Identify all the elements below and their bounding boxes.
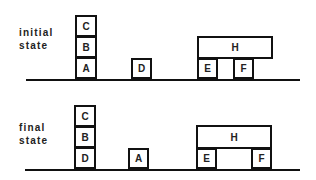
block-d: D: [74, 147, 96, 169]
ground-line: [25, 169, 300, 171]
block-f: F: [233, 58, 254, 79]
block-e: E: [197, 58, 218, 79]
block-b: B: [74, 126, 96, 148]
block-c: C: [74, 105, 96, 127]
initial-state-label: initial state: [19, 26, 54, 52]
block-h: H: [197, 36, 273, 59]
block-b: B: [75, 36, 97, 58]
label-line-1: final: [19, 121, 48, 134]
final-state-label: final state: [19, 121, 48, 147]
label-line-2: state: [19, 134, 48, 147]
label-line-1: initial: [19, 26, 54, 39]
block-c: C: [75, 15, 97, 37]
block-h: H: [196, 125, 272, 149]
block-e: E: [196, 148, 217, 169]
block-a: A: [75, 57, 97, 79]
block-f: F: [251, 148, 272, 169]
ground-line: [26, 79, 300, 81]
block-a: A: [128, 148, 149, 169]
label-line-2: state: [19, 39, 54, 52]
block-d: D: [131, 58, 152, 79]
